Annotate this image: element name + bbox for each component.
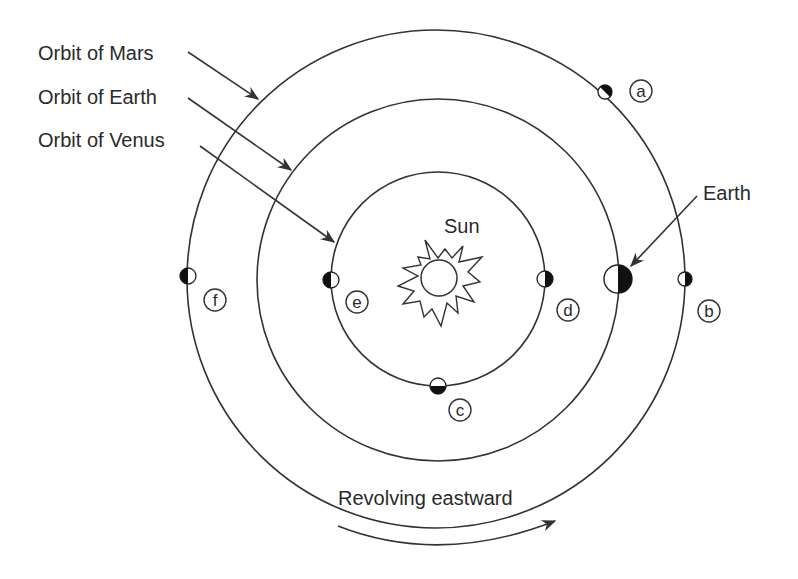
svg-text:b: b xyxy=(704,302,713,321)
position-f-label: f xyxy=(204,289,226,311)
position-b-marker xyxy=(678,272,692,286)
sun xyxy=(398,240,482,326)
label-sun: Sun xyxy=(444,215,480,237)
position-d-label: d xyxy=(557,299,579,321)
svg-text:e: e xyxy=(352,293,361,312)
svg-text:d: d xyxy=(563,301,572,320)
label-revolving-eastward: Revolving eastward xyxy=(338,487,513,509)
eastward-arrow-icon xyxy=(338,521,555,545)
position-c-label: c xyxy=(449,399,471,421)
arrow-to-earth-icon xyxy=(631,196,697,266)
position-b-label: b xyxy=(698,300,720,322)
svg-text:f: f xyxy=(213,291,218,310)
svg-text:c: c xyxy=(456,401,465,420)
position-f-marker xyxy=(180,268,196,284)
position-e-marker xyxy=(323,272,339,288)
sun-disk-icon xyxy=(421,260,457,296)
position-a-label: a xyxy=(630,80,652,102)
position-d-marker xyxy=(537,271,553,287)
label-orbit-of-venus: Orbit of Venus xyxy=(38,129,165,151)
position-a-marker xyxy=(598,85,612,99)
label-orbit-of-earth: Orbit of Earth xyxy=(38,86,157,108)
arrow-to-venus-orbit-icon xyxy=(200,146,334,242)
orbit-diagram: Orbit of Mars Orbit of Earth Orbit of Ve… xyxy=(0,0,798,579)
earth-marker xyxy=(604,265,632,293)
position-c-marker xyxy=(430,378,446,394)
position-e-label: e xyxy=(346,291,368,313)
label-orbit-of-mars: Orbit of Mars xyxy=(38,42,154,64)
label-earth: Earth xyxy=(703,182,751,204)
arrow-to-mars-orbit-icon xyxy=(188,52,258,99)
svg-text:a: a xyxy=(636,82,646,101)
arrow-to-earth-orbit-icon xyxy=(188,98,291,170)
